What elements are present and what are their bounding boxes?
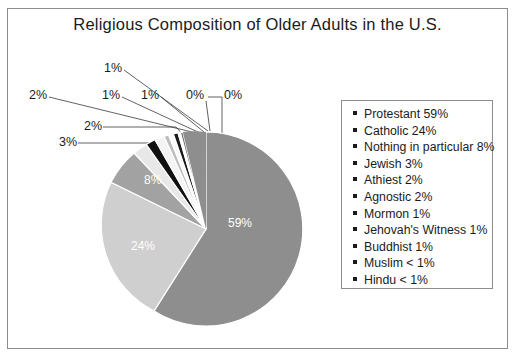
legend-item-label: Athiest 2%: [364, 174, 423, 186]
legend-item-label: Mormon 1%: [364, 208, 430, 220]
bullet-icon: [353, 211, 357, 215]
pie-outer-label-buddhist: 1%: [104, 61, 122, 75]
legend-item-label: Agnostic 2%: [364, 191, 432, 203]
bullet-icon: [353, 128, 357, 132]
pie-svg: [100, 123, 312, 335]
pie-label-nothing: 8%: [144, 173, 161, 187]
pie-outer-label-agnostic: 2%: [84, 119, 102, 133]
bullet-icon: [353, 277, 357, 281]
legend-item-label: Hindu < 1%: [364, 274, 428, 286]
bullet-icon: [353, 244, 357, 248]
legend-item: Nothing in particular 8%: [342, 141, 492, 158]
bullet-icon: [353, 260, 357, 264]
chart-title: Religious Composition of Older Adults in…: [0, 15, 515, 34]
pie-chart: 59% 24% 8%: [100, 123, 312, 335]
pie-outer-label-athiest: 2%: [29, 88, 47, 102]
pie-outer-label-muslim: 0%: [186, 88, 204, 102]
bullet-icon: [353, 111, 357, 115]
legend-item-label: Jehovah's Witness 1%: [364, 224, 487, 236]
bullet-icon: [353, 177, 357, 181]
bullet-icon: [353, 161, 357, 165]
bullet-icon: [353, 194, 357, 198]
pie-label-protestant: 59%: [228, 216, 252, 230]
legend-item: Mormon 1%: [342, 208, 492, 225]
legend-item: Agnostic 2%: [342, 191, 492, 208]
legend-item: Protestant 59%: [342, 108, 492, 125]
pie-outer-label-jehovah: 1%: [141, 88, 159, 102]
legend-item: Catholic 24%: [342, 125, 492, 142]
legend-item-label: Catholic 24%: [364, 125, 436, 137]
legend-item: Athiest 2%: [342, 174, 492, 191]
pie-outer-label-hindu: 0%: [224, 88, 242, 102]
pie-outer-label-jewish: 3%: [59, 135, 77, 149]
legend-item-label: Muslim < 1%: [364, 257, 435, 269]
legend-item: Jehovah's Witness 1%: [342, 224, 492, 241]
pie-label-catholic: 24%: [131, 239, 155, 253]
chart-legend: Protestant 59% Catholic 24% Nothing in p…: [341, 100, 493, 289]
legend-item: Muslim < 1%: [342, 257, 492, 274]
pie-outer-label-mormon: 1%: [102, 88, 120, 102]
legend-item: Jewish 3%: [342, 158, 492, 175]
legend-item: Buddhist 1%: [342, 241, 492, 258]
legend-item: Hindu < 1%: [342, 274, 492, 291]
chart-page: Religious Composition of Older Adults in…: [0, 0, 515, 359]
legend-item-label: Buddhist 1%: [364, 241, 433, 253]
legend-item-label: Nothing in particular 8%: [364, 141, 495, 153]
bullet-icon: [353, 144, 357, 148]
legend-item-label: Protestant 59%: [364, 108, 448, 120]
bullet-icon: [353, 227, 357, 231]
legend-item-label: Jewish 3%: [364, 158, 423, 170]
